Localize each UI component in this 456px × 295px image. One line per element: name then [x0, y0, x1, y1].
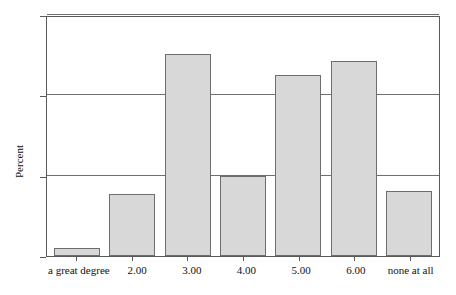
bar-slot — [382, 17, 437, 256]
bar — [220, 176, 266, 256]
x-tick-label: 4.00 — [219, 264, 274, 276]
x-tick-label: none at all — [383, 264, 438, 276]
x-tick-label: 3.00 — [164, 264, 219, 276]
bar-slot — [160, 17, 215, 256]
chart-screenshot: Percent 0102030 a great degree2.003.004.… — [0, 0, 456, 295]
bar — [275, 75, 321, 256]
x-axis-ticks — [46, 257, 440, 263]
x-tick-mark — [132, 257, 133, 261]
bar-slot — [215, 17, 270, 256]
bar — [109, 194, 155, 256]
bar-slot — [271, 17, 326, 256]
x-tick-mark — [354, 257, 355, 261]
y-axis-title: Percent — [13, 145, 25, 178]
x-tick-mark — [243, 257, 244, 261]
x-tick-mark — [410, 257, 411, 261]
x-tick-label: 6.00 — [329, 264, 384, 276]
x-tick-label: a great degree — [48, 264, 110, 276]
y-tick-10: 10 — [0, 177, 46, 178]
bar-series — [47, 17, 439, 256]
x-tick-mark — [299, 257, 300, 261]
bar — [331, 61, 377, 256]
gridline-30 — [47, 14, 439, 15]
bar — [165, 54, 211, 256]
bar — [386, 191, 432, 256]
x-axis-labels: a great degree2.003.004.005.006.00none a… — [46, 264, 440, 276]
y-tick-0: 0 — [0, 257, 46, 258]
y-tick-30: 30 — [0, 16, 46, 17]
x-tick-mark — [76, 257, 77, 261]
bar — [54, 248, 100, 256]
x-tick-label: 2.00 — [110, 264, 165, 276]
bar-slot — [326, 17, 381, 256]
x-tick-label: 5.00 — [274, 264, 329, 276]
x-tick-mark — [187, 257, 188, 261]
bar-slot — [49, 17, 104, 256]
plot-area — [46, 16, 440, 257]
bar-slot — [104, 17, 159, 256]
y-tick-20: 20 — [0, 96, 46, 97]
